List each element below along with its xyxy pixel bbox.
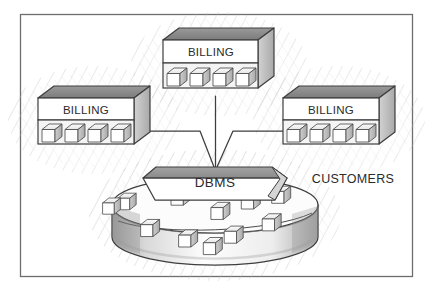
unit-cube	[287, 124, 307, 142]
record-cube	[262, 214, 281, 231]
building-label: BILLING	[63, 104, 109, 116]
billing-building-left[interactable]: BILLING	[38, 86, 150, 144]
unit-cube	[111, 124, 131, 142]
unit-cube	[333, 124, 353, 142]
unit-cube	[190, 68, 210, 86]
unit-cube	[42, 124, 62, 142]
building-roof	[283, 86, 395, 98]
billing-building-top[interactable]: BILLING	[163, 28, 274, 88]
building-label: BILLING	[188, 46, 234, 58]
unit-cube	[213, 68, 233, 86]
unit-cube	[88, 124, 108, 142]
record-cube	[224, 226, 243, 243]
dbms-node[interactable]: DBMS	[143, 167, 287, 200]
record-cube	[211, 202, 230, 219]
unit-cube	[356, 124, 376, 142]
record-cube	[103, 198, 121, 214]
building-roof	[163, 28, 274, 40]
unit-cube	[236, 68, 256, 86]
unit-cube	[310, 124, 330, 142]
unit-cube	[167, 68, 187, 86]
building-label: BILLING	[308, 104, 354, 116]
dbms-label: DBMS	[195, 175, 236, 190]
record-cube	[141, 219, 160, 236]
diagram-canvas: DBMS CUSTOMERS BILLING	[0, 0, 433, 289]
building-roof	[38, 86, 150, 98]
record-cube	[203, 238, 222, 255]
record-cube	[179, 230, 198, 247]
billing-building-right[interactable]: BILLING	[283, 86, 395, 144]
customers-label: CUSTOMERS	[312, 172, 394, 186]
architecture-diagram: DBMS CUSTOMERS BILLING	[0, 0, 433, 289]
unit-cube	[65, 124, 85, 142]
